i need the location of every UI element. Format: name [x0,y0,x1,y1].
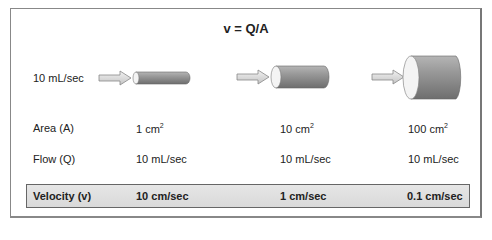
flow-value-large: 10 mL/sec [408,153,459,165]
arrow-icon [98,70,133,86]
equation-title: v = Q/A [0,21,492,36]
arrow-icon [371,69,406,85]
flow-row-label: Flow (Q) [33,153,75,165]
velocity-value-medium: 1 cm/sec [280,190,326,202]
velocity-row-label: Velocity (v) [33,190,91,202]
flow-value-small: 10 mL/sec [136,153,187,165]
area-value-medium: 10 cm2 [280,122,314,135]
inflow-label: 10 mL/sec [33,72,84,84]
area-value-small: 1 cm2 [136,122,164,135]
arrow-icon [236,69,271,85]
velocity-value-small: 10 cm/sec [136,190,189,202]
velocity-row-bar [26,184,470,208]
tube-large-icon [402,55,464,100]
velocity-value-large: 0.1 cm/sec [407,190,463,202]
area-value-large: 100 cm2 [408,122,448,135]
area-row-label: Area (A) [33,122,74,134]
tube-medium-icon [270,65,332,89]
tube-small-icon [132,71,192,85]
flow-value-medium: 10 mL/sec [280,153,331,165]
